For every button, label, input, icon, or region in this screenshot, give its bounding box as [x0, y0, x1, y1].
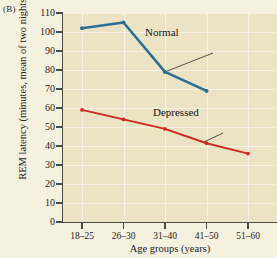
y-tick-label-wrap: 50	[0, 122, 55, 132]
y-tick-label-wrap: 70	[0, 84, 55, 94]
data-point-depressed	[163, 127, 167, 131]
x-tick-label: 41–50	[184, 231, 230, 241]
leader-line-normal	[165, 53, 213, 72]
y-tick-label-wrap: 110	[0, 8, 55, 18]
y-tick-label: 110	[0, 8, 55, 18]
y-tick-label: 80	[0, 65, 55, 75]
y-tick-mark	[56, 12, 62, 13]
y-tick-mark	[56, 202, 62, 203]
figure-panel-b: (B) REM latency (minutes, mean of two ni…	[0, 0, 277, 258]
y-tick-mark	[56, 145, 62, 146]
x-axis-line	[62, 222, 277, 223]
data-point-normal	[205, 89, 209, 93]
y-tick-label-wrap: 30	[0, 160, 55, 170]
y-tick-label: 10	[0, 198, 55, 208]
y-tick-mark	[56, 31, 62, 32]
y-tick-label-wrap: 10	[0, 198, 55, 208]
data-point-depressed	[246, 152, 250, 156]
y-tick-label: 90	[0, 46, 55, 56]
y-tick-mark	[56, 107, 62, 108]
annotation-normal: Normal	[145, 26, 179, 38]
data-point-depressed	[80, 108, 84, 112]
data-point-normal	[163, 70, 167, 74]
y-tick-label: 70	[0, 84, 55, 94]
x-tick-mark	[123, 223, 124, 229]
data-point-depressed	[205, 141, 209, 145]
y-tick-label-wrap: 20	[0, 179, 55, 189]
leader-line-depressed	[204, 133, 224, 142]
x-axis-title: Age groups (years)	[63, 243, 277, 254]
x-tick-label: 18–25	[59, 231, 105, 241]
y-tick-label-wrap: 80	[0, 65, 55, 75]
y-tick-label: 0	[0, 217, 55, 227]
x-tick-mark	[81, 223, 82, 229]
y-tick-label-wrap: 100	[0, 27, 55, 37]
x-tick-mark	[164, 223, 165, 229]
y-tick-mark	[56, 69, 62, 70]
x-tick-label: 26–30	[101, 231, 147, 241]
y-tick-label-wrap: 60	[0, 103, 55, 113]
x-tick-label: 31–40	[142, 231, 188, 241]
data-point-normal	[122, 21, 126, 25]
y-tick-label-wrap: 0	[0, 217, 55, 227]
y-tick-label: 50	[0, 122, 55, 132]
y-tick-mark	[56, 88, 62, 89]
y-tick-label-wrap: 40	[0, 141, 55, 151]
x-tick-label: 51–60	[225, 231, 271, 241]
x-tick-mark	[247, 223, 248, 229]
data-point-normal	[80, 26, 84, 30]
x-tick-mark	[206, 223, 207, 229]
y-tick-label: 40	[0, 141, 55, 151]
y-tick-mark	[56, 50, 62, 51]
annotation-depressed: Depressed	[153, 106, 199, 118]
data-point-depressed	[122, 118, 126, 122]
y-tick-label: 20	[0, 179, 55, 189]
y-tick-mark	[56, 126, 62, 127]
y-axis-line	[62, 12, 63, 223]
y-tick-label: 60	[0, 103, 55, 113]
y-tick-label-wrap: 90	[0, 46, 55, 56]
y-tick-mark	[56, 183, 62, 184]
y-tick-mark	[56, 221, 62, 222]
y-tick-label: 100	[0, 27, 55, 37]
y-tick-label: 30	[0, 160, 55, 170]
y-tick-mark	[56, 164, 62, 165]
